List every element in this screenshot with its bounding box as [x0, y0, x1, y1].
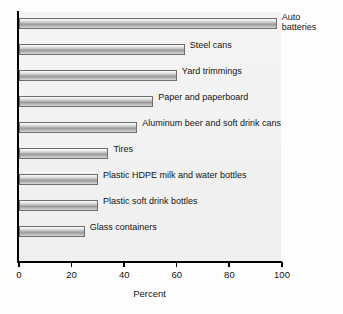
x-tick: [176, 262, 178, 267]
bar-row: Plastic HDPE milk and water bottles: [19, 168, 282, 194]
bar: [19, 226, 85, 237]
bar: [19, 70, 177, 81]
bar-row: Aluminum beer and soft drink cans: [19, 116, 282, 142]
x-tick-label: 20: [57, 269, 87, 280]
x-tick: [281, 262, 283, 267]
bar: [19, 174, 98, 185]
bar: [19, 148, 108, 159]
bar-row: Plastic soft drink bottles: [19, 194, 282, 220]
x-tick: [123, 262, 125, 267]
recycling-rate-bar-chart: AutobatteriesSteel cansYard trimmingsPap…: [0, 0, 343, 314]
bar-label: Glass containers: [90, 222, 157, 232]
x-axis-title: Percent: [18, 288, 281, 299]
bar: [19, 122, 137, 133]
bar-label: Tires: [113, 144, 133, 154]
bar-row: Paper and paperboard: [19, 90, 282, 116]
bar-label: Steel cans: [190, 40, 232, 50]
bar-row: Tires: [19, 142, 282, 168]
bar: [19, 96, 153, 107]
bar-label: Plastic HDPE milk and water bottles: [103, 170, 247, 180]
bar-row: Glass containers: [19, 220, 282, 246]
bar: [19, 44, 185, 55]
bar-label: Plastic soft drink bottles: [103, 196, 198, 206]
x-tick-label: 60: [162, 269, 192, 280]
bar-label: Yard trimmings: [182, 66, 242, 76]
bar-label: Aluminum beer and soft drink cans: [142, 118, 281, 128]
x-tick-label: 80: [214, 269, 244, 280]
bar-row: Autobatteries: [19, 12, 282, 38]
bar-row: Steel cans: [19, 38, 282, 64]
x-tick-label: 40: [109, 269, 139, 280]
x-axis-line: [17, 261, 282, 263]
x-tick: [18, 262, 20, 267]
bar-row: Yard trimmings: [19, 64, 282, 90]
bar-label: Paper and paperboard: [158, 92, 248, 102]
bar-label: Autobatteries: [282, 12, 338, 32]
x-tick-label: 100: [267, 269, 297, 280]
x-tick-label: 0: [4, 269, 34, 280]
bar: [19, 18, 277, 29]
x-tick: [228, 262, 230, 267]
x-tick: [71, 262, 73, 267]
bar: [19, 200, 98, 211]
